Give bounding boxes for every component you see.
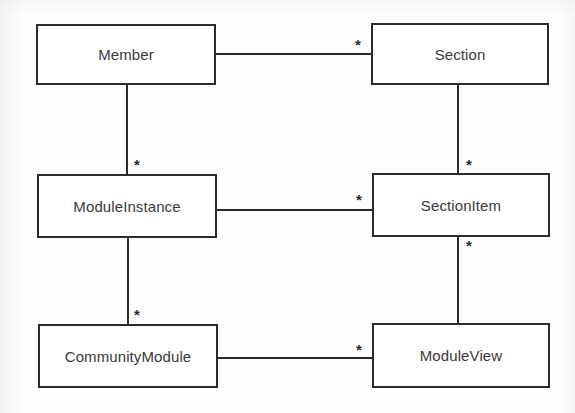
class-name-member: Member	[98, 47, 154, 62]
multiplicity-sectionitem-moduleview: *	[466, 238, 472, 253]
multiplicity-moduleinstance-communitymodule: *	[134, 307, 140, 322]
association-line-member-section	[216, 53, 372, 55]
class-name-communitymodule: CommunityModule	[65, 349, 192, 364]
multiplicity-communitymodule-moduleview: *	[356, 342, 362, 357]
association-line-section-sectionitem	[457, 85, 459, 174]
class-box-moduleview[interactable]: ModuleView	[372, 323, 550, 388]
multiplicity-section-sectionitem: *	[466, 157, 472, 172]
class-box-moduleinstance[interactable]: ModuleInstance	[37, 174, 217, 238]
class-box-member[interactable]: Member	[36, 24, 216, 85]
association-line-moduleinstance-communitymodule	[127, 238, 129, 326]
class-box-communitymodule[interactable]: CommunityModule	[38, 324, 218, 388]
class-name-moduleinstance: ModuleInstance	[73, 199, 180, 214]
association-line-sectionitem-moduleview	[457, 237, 459, 325]
multiplicity-member-section: *	[355, 37, 361, 52]
uml-class-diagram: Member Section ModuleInstance SectionIte…	[0, 0, 575, 413]
class-box-section[interactable]: Section	[371, 23, 549, 85]
multiplicity-member-moduleinstance: *	[134, 157, 140, 172]
class-name-sectionitem: SectionItem	[421, 198, 501, 213]
association-line-communitymodule-moduleview	[218, 357, 373, 359]
association-line-member-moduleinstance	[126, 85, 128, 175]
class-name-moduleview: ModuleView	[420, 348, 502, 363]
class-name-section: Section	[435, 47, 486, 62]
association-line-moduleinstance-sectionitem	[217, 209, 373, 211]
multiplicity-moduleinstance-sectionitem: *	[356, 192, 362, 207]
class-box-sectionitem[interactable]: SectionItem	[372, 173, 550, 237]
